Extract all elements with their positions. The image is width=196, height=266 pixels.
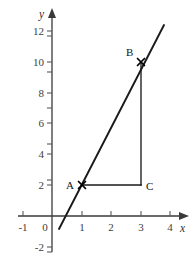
x-tick-labels: -1 0 1 2 3 4	[18, 221, 173, 233]
y-tick-label-2: 2	[39, 179, 45, 191]
y-axis-name: y	[38, 8, 45, 21]
point-markers-group	[79, 59, 145, 189]
coordinate-figure: 12 10 8 6 4 2 -2 -1 0 1 2 3 4 y x A B C	[0, 0, 196, 266]
point-label-c: C	[146, 180, 153, 192]
y-tick-label-6: 6	[39, 117, 45, 129]
y-tick-label-minus-2: -2	[35, 241, 44, 253]
plotted-line-group	[59, 25, 164, 229]
y-tick-label-8: 8	[39, 87, 45, 99]
graph-canvas: 12 10 8 6 4 2 -2 -1 0 1 2 3 4 y x A B C	[0, 0, 196, 266]
point-label-a: A	[66, 179, 74, 191]
x-axis-ticks	[23, 211, 170, 216]
x-tick-label-0: 0	[42, 221, 48, 233]
x-axis-arrow-icon	[179, 212, 189, 220]
x-tick-label-1: 1	[79, 221, 85, 233]
x-tick-label-2: 2	[108, 221, 114, 233]
y-axis-ticks	[47, 36, 52, 252]
x-axis-name: x	[179, 222, 186, 234]
y-tick-label-4: 4	[39, 148, 45, 160]
x-tick-label-4: 4	[167, 221, 173, 233]
y-tick-label-12: 12	[33, 25, 44, 37]
point-label-b: B	[126, 46, 133, 58]
point-text-labels: A B C	[66, 46, 153, 192]
y-axis-ticks-rendered	[47, 31, 52, 247]
y-tick-label-10: 10	[33, 56, 45, 68]
x-tick-label-minus-1: -1	[18, 221, 27, 233]
axis-name-labels: y x	[38, 8, 186, 234]
y-tick-labels: 12 10 8 6 4 2 -2	[33, 25, 45, 253]
line-through-a-b	[59, 25, 164, 229]
y-axis-arrow-icon	[48, 8, 56, 18]
axes-group	[18, 8, 189, 252]
x-tick-label-3: 3	[138, 221, 144, 233]
